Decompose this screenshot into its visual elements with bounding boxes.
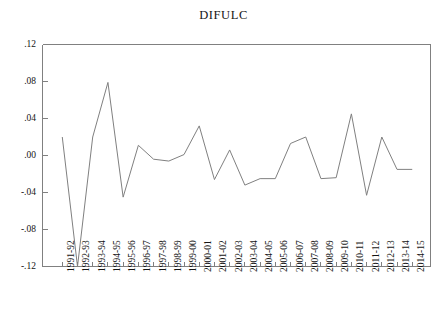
x-tick-label: 2001-02 [218, 240, 228, 272]
x-tick-label: 2008-09 [325, 240, 335, 272]
x-tick-label: 2009-10 [340, 240, 350, 272]
x-tick-label: 2003-04 [249, 240, 259, 272]
x-tick-label: 2004-05 [264, 240, 274, 272]
x-tick-label: 1995-96 [127, 240, 137, 272]
y-tick-label: -.12 [2, 261, 36, 271]
x-tick-label: 1996-97 [142, 240, 152, 272]
chart-container: DIFULC .12.08.04.00-.04-.08-.12 1991-921… [0, 0, 447, 325]
axis-ticks [43, 45, 413, 267]
x-tick-label: 1994-95 [112, 240, 122, 272]
x-tick-label: 2006-07 [295, 240, 305, 272]
y-tick-label: -.04 [2, 187, 36, 197]
y-tick-label: .08 [2, 76, 36, 86]
x-tick-label: 2011-12 [371, 240, 381, 271]
x-tick-label: 2013-14 [401, 240, 411, 272]
data-series-line [62, 82, 412, 266]
x-tick-label: 2012-13 [386, 240, 396, 272]
y-tick-label: -.08 [2, 224, 36, 234]
y-tick-label: .00 [2, 150, 36, 160]
x-tick-label: 2000-01 [203, 240, 213, 272]
x-tick-label: 1997-98 [158, 240, 168, 272]
x-tick-label: 1992-93 [81, 240, 91, 272]
x-tick-label: 2007-08 [310, 240, 320, 272]
y-tick-label: .04 [2, 113, 36, 123]
y-tick-label: .12 [2, 39, 36, 49]
x-tick-label: 2002-03 [234, 240, 244, 272]
x-tick-label: 2014-15 [416, 240, 426, 272]
x-tick-label: 1993-94 [97, 240, 107, 272]
plot-area [0, 0, 447, 325]
x-tick-label: 1998-99 [173, 240, 183, 272]
x-tick-label: 1999-00 [188, 240, 198, 272]
x-tick-label: 2005-06 [279, 240, 289, 272]
x-tick-label: 2010-11 [355, 240, 365, 271]
axes [43, 45, 431, 267]
x-tick-label: 1991-92 [66, 240, 76, 272]
